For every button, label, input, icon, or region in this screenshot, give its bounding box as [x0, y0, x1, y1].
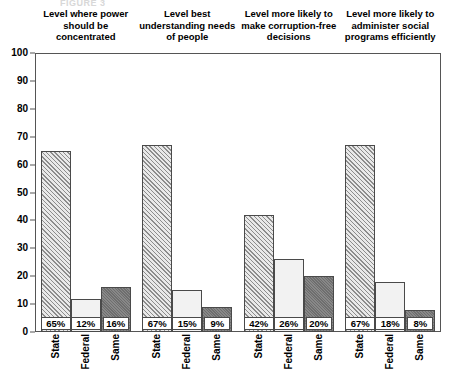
- bar-value-label: 16%: [103, 317, 129, 330]
- y-axis: 1009080706050403020100: [0, 53, 35, 332]
- x-label-text: State: [355, 334, 365, 358]
- x-label-federal-group-1: Federal: [80, 334, 92, 384]
- bar-value-label: 65%: [41, 317, 71, 330]
- x-label-same-group-1: Same: [110, 334, 122, 384]
- bar-value-label: 20%: [306, 317, 332, 330]
- x-label-same-group-3: Same: [313, 334, 325, 384]
- bar-federal-group-2: 15%: [172, 290, 202, 332]
- bar-same-group-1: 16%: [101, 287, 131, 332]
- x-label-same-group-2: Same: [211, 334, 223, 384]
- group-header-1: Level where power should be concentrated: [35, 8, 137, 52]
- bar-value-label: 42%: [244, 317, 274, 330]
- bar-same-group-4: 8%: [405, 310, 435, 332]
- x-axis-labels: StateFederalSameStateFederalSameStateFed…: [35, 334, 441, 385]
- bar-chart-figure: FIGURE 3 Level where power should be con…: [0, 0, 454, 385]
- x-label-state-group-1: State: [50, 334, 62, 384]
- x-label-text: State: [152, 334, 162, 358]
- y-tick-label: 80: [17, 104, 28, 114]
- bar-value-label: 8%: [407, 317, 433, 330]
- x-label-text: Same: [314, 334, 324, 361]
- figure-title: FIGURE 3: [60, 0, 260, 8]
- y-tick-label: 100: [11, 48, 28, 58]
- bar-federal-group-4: 18%: [375, 282, 405, 332]
- y-tick-label: 20: [17, 271, 28, 281]
- x-label-state-group-3: State: [253, 334, 265, 384]
- x-label-text: Federal: [81, 334, 91, 370]
- group-header-3: Level more likely to make corruption-fre…: [238, 8, 340, 52]
- group-header-2: Level best understanding needs of people: [137, 8, 239, 52]
- y-tick-label: 30: [17, 243, 28, 253]
- x-label-text: Federal: [385, 334, 395, 370]
- x-label-text: State: [254, 334, 264, 358]
- bar-same-group-3: 20%: [304, 276, 334, 332]
- y-tick-label: 10: [17, 299, 28, 309]
- y-tick-label: 90: [17, 76, 28, 86]
- bar-value-label: 67%: [345, 317, 375, 330]
- bar-value-label: 12%: [71, 317, 101, 330]
- x-label-text: Same: [111, 334, 121, 361]
- x-label-text: Federal: [182, 334, 192, 370]
- group-header-row: Level where power should be concentrated…: [35, 8, 441, 52]
- bar-value-label: 26%: [274, 317, 304, 330]
- bar-state-group-1: 65%: [41, 151, 71, 332]
- x-label-text: Same: [415, 334, 425, 361]
- x-label-text: State: [51, 334, 61, 358]
- y-tick-label: 70: [17, 132, 28, 142]
- y-tick-label: 60: [17, 160, 28, 170]
- bars-layer: 65%12%16%67%15%9%42%26%20%67%18%8%: [35, 53, 441, 332]
- bar-state-group-3: 42%: [244, 215, 274, 332]
- bar-state-group-2: 67%: [142, 145, 172, 332]
- y-tick-label: 40: [17, 215, 28, 225]
- x-label-same-group-4: Same: [414, 334, 426, 384]
- x-label-state-group-4: State: [354, 334, 366, 384]
- bar-value-label: 15%: [172, 317, 202, 330]
- x-label-state-group-2: State: [151, 334, 163, 384]
- bar-state-group-4: 67%: [345, 145, 375, 332]
- x-label-text: Federal: [284, 334, 294, 370]
- bar-value-label: 9%: [204, 317, 230, 330]
- bar-federal-group-3: 26%: [274, 259, 304, 332]
- x-label-federal-group-2: Federal: [181, 334, 193, 384]
- x-label-text: Same: [212, 334, 222, 361]
- y-tick-label: 50: [17, 188, 28, 198]
- x-label-federal-group-3: Federal: [283, 334, 295, 384]
- y-tick-label: 0: [22, 327, 28, 337]
- bar-value-label: 67%: [142, 317, 172, 330]
- bar-value-label: 18%: [375, 317, 405, 330]
- group-header-4: Level more likely to administer social p…: [340, 8, 442, 52]
- bar-same-group-2: 9%: [202, 307, 232, 332]
- bar-federal-group-1: 12%: [71, 299, 101, 332]
- x-label-federal-group-4: Federal: [384, 334, 396, 384]
